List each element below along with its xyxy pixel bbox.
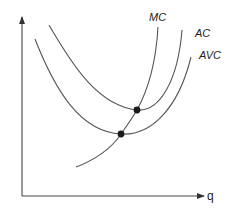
cost-curves-diagram: q MC AC AVC [0, 0, 233, 212]
mc-avc-intersection-point [118, 131, 125, 138]
avc-curve-label: AVC [198, 49, 221, 61]
mc-curve-label: MC [149, 11, 166, 23]
ac-curve [49, 25, 182, 110]
mc-curve [76, 27, 158, 167]
x-axis-label: q [207, 189, 214, 203]
mc-ac-intersection-point [134, 107, 141, 114]
ac-curve-label: AC [194, 27, 210, 39]
